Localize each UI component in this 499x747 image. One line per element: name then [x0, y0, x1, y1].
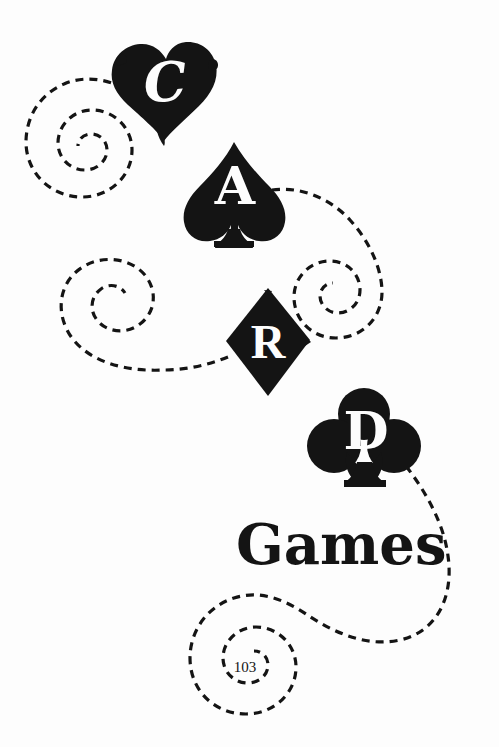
page-number: 103	[215, 659, 275, 676]
card-games-illustration	[0, 0, 499, 747]
illustration-page: C A R D Games 103	[0, 0, 499, 747]
spiral-upper-left	[26, 79, 132, 197]
diamond-icon	[226, 288, 311, 396]
club-icon	[307, 388, 421, 487]
games-title-word: Games	[236, 516, 447, 572]
heart-icon	[112, 42, 218, 146]
spade-icon	[184, 142, 286, 248]
spiral-bottom	[190, 466, 449, 714]
spiral-middle-left	[61, 259, 228, 370]
